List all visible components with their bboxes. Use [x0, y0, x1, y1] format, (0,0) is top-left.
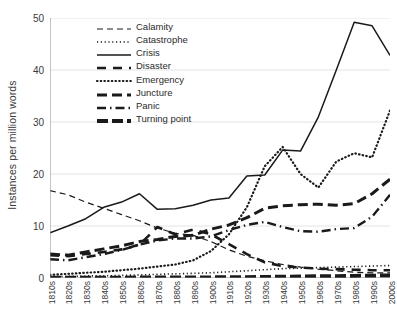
legend-key-swatch [96, 73, 132, 85]
line-chart-figure: Instances per million words 01020304050 … [0, 0, 397, 335]
x-tick-label: 1830s [82, 281, 92, 304]
x-tick-label: 1940s [279, 281, 289, 304]
x-tick-label: 1930s [261, 281, 271, 304]
x-tick-label: 1890s [190, 281, 200, 304]
x-axis-tick-labels: 1810s1820s1830s1840s1850s1860s1870s1880s… [50, 281, 390, 335]
legend-item-emergency[interactable]: Emergency [96, 73, 246, 86]
x-tick-label: 1990s [369, 281, 379, 304]
legend-key-swatch [96, 34, 132, 46]
x-tick-label: 1960s [315, 281, 325, 304]
x-tick-label: 1850s [118, 281, 128, 304]
series-line-calamity [50, 191, 390, 273]
legend-item-juncture[interactable]: Juncture [96, 86, 246, 99]
y-axis-tick-labels: 01020304050 [22, 0, 48, 290]
x-tick-label: 1820s [64, 281, 74, 304]
legend-item-label: Turning point [136, 114, 191, 124]
y-tick-label: 40 [22, 65, 48, 76]
legend-key-swatch [96, 60, 132, 72]
legend-key-swatch [96, 21, 132, 33]
series-line-juncture [50, 179, 390, 255]
legend-item-turning-point[interactable]: Turning point [96, 112, 246, 125]
legend-item-calamity[interactable]: Calamity [96, 20, 246, 33]
y-tick-label: 30 [22, 117, 48, 128]
legend-key-swatch [96, 113, 132, 125]
x-tick-label: 1950s [297, 281, 307, 304]
y-tick-label: 50 [22, 13, 48, 24]
legend-item-label: Catastrophe [136, 35, 188, 45]
x-tick-label: 1920s [243, 281, 253, 304]
x-tick-label: 1900s [208, 281, 218, 304]
legend-key-swatch [96, 100, 132, 112]
x-tick-label: 1880s [172, 281, 182, 304]
y-axis-title-text: Instances per million words [6, 80, 18, 209]
y-tick-label: 10 [22, 221, 48, 232]
x-tick-label: 1840s [100, 281, 110, 304]
x-tick-label: 1870s [154, 281, 164, 304]
x-tick-label: 1910s [225, 281, 235, 304]
legend-key-swatch [96, 87, 132, 99]
legend-item-label: Emergency [136, 75, 184, 85]
legend-item-label: Crisis [136, 48, 160, 58]
legend-key-swatch [96, 47, 132, 59]
legend-item-disaster[interactable]: Disaster [96, 60, 246, 73]
series-line-turning-point [50, 275, 390, 277]
y-axis-title: Instances per million words [0, 0, 24, 290]
legend-item-label: Juncture [136, 88, 172, 98]
legend-item-panic[interactable]: Panic [96, 99, 246, 112]
x-tick-label: 1860s [136, 281, 146, 304]
y-tick-label: 20 [22, 169, 48, 180]
x-tick-label: 2000s [387, 281, 397, 304]
x-tick-label: 1970s [333, 281, 343, 304]
legend-item-label: Calamity [136, 22, 173, 32]
legend-item-label: Disaster [136, 61, 171, 71]
chart-legend: CalamityCatastropheCrisisDisasterEmergen… [96, 20, 246, 126]
legend-item-crisis[interactable]: Crisis [96, 46, 246, 59]
x-tick-label: 1980s [351, 281, 361, 304]
y-tick-label: 0 [22, 273, 48, 284]
x-tick-label: 1810s [47, 281, 57, 304]
legend-item-label: Panic [136, 101, 160, 111]
legend-item-catastrophe[interactable]: Catastrophe [96, 33, 246, 46]
